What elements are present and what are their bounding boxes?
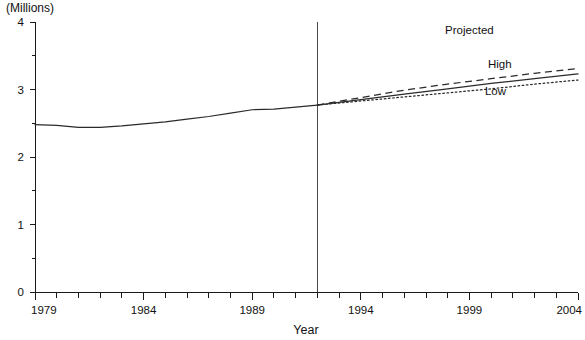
y-tick-label-group: 01234 bbox=[18, 16, 25, 298]
x-tick-label: 1999 bbox=[457, 304, 483, 316]
x-tick-label: 1979 bbox=[31, 304, 57, 316]
x-tick-label: 1994 bbox=[348, 304, 374, 316]
y-tick-label: 1 bbox=[18, 219, 24, 231]
chart-annotation: Low bbox=[485, 85, 507, 97]
series-line-historical bbox=[35, 105, 317, 127]
chart-annotation: Projected bbox=[445, 24, 494, 36]
chart-annotation: High bbox=[488, 58, 512, 70]
y-tick-label: 4 bbox=[18, 16, 25, 28]
x-tick-label: 1989 bbox=[239, 304, 265, 316]
chart-plot-area: 01234 197919841989199419992004 Projected… bbox=[0, 0, 585, 340]
x-axis-title: Year bbox=[293, 323, 318, 337]
x-tick-label: 1984 bbox=[131, 304, 157, 316]
y-tick-label: 3 bbox=[18, 84, 24, 96]
annotation-group: ProjectedHighLow bbox=[445, 24, 512, 97]
series-line-middle bbox=[317, 74, 578, 105]
y-tick-label: 2 bbox=[18, 151, 24, 163]
y-axis-group: 01234 bbox=[18, 16, 36, 298]
y-tick-label: 0 bbox=[18, 286, 24, 298]
x-tick-group bbox=[35, 293, 578, 300]
x-axis-group: 197919841989199419992004 bbox=[31, 293, 583, 317]
x-tick-label-group: 197919841989199419992004 bbox=[31, 304, 583, 316]
chart-container: (Millions) 01234 19791984198919941999200… bbox=[0, 0, 585, 340]
y-tick-group bbox=[30, 22, 36, 292]
x-tick-label: 2004 bbox=[556, 304, 582, 316]
